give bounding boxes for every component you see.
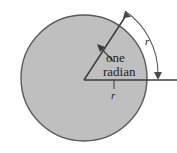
radian-diagram: one radian r r — [0, 0, 177, 153]
annotation-line1: one — [106, 50, 125, 65]
annotation-line2: radian — [103, 64, 136, 79]
arc-arrowhead-bottom — [154, 72, 162, 80]
arc-length-label: r — [145, 35, 150, 47]
radius-horizontal-label: r — [111, 89, 116, 101]
radian-diagram-svg: one radian r r — [0, 0, 177, 153]
